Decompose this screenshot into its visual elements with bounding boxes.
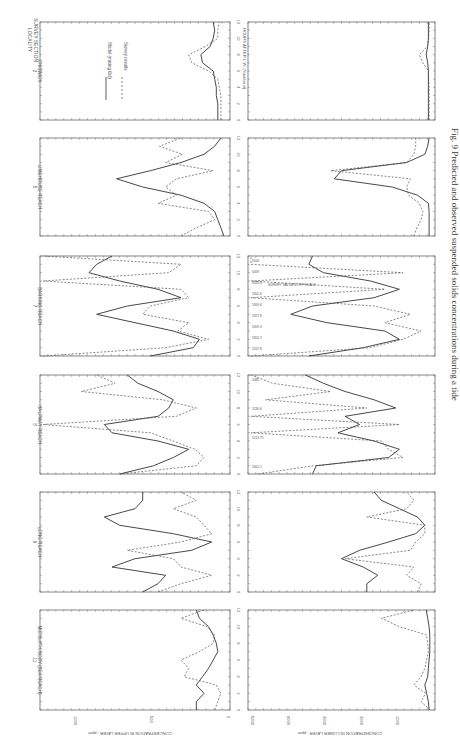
- figure-caption: Fig. 9 Predicted and observed suspended …: [450, 128, 460, 401]
- lower-tick-label: 3000: [322, 716, 327, 726]
- lower-layer-plot-frame: [248, 138, 435, 236]
- time-tick-label: 10: [236, 624, 241, 629]
- time-tick-label: 4: [236, 322, 241, 325]
- off-scale-annotation: 5309.6: [252, 303, 262, 307]
- time-tick-label: 6: [236, 659, 241, 662]
- upper-layer-plot-frame: [40, 375, 230, 474]
- legend-model-label: Model (mixing tbd): [107, 42, 112, 80]
- time-tick-label: 6: [236, 305, 241, 308]
- time-tick-label: 4: [236, 558, 241, 561]
- time-tick-label: 8: [236, 288, 241, 291]
- lower-layer-plot-frame: [248, 22, 435, 120]
- time-tick-label: 12: [236, 373, 241, 378]
- lower-layer-plot-frame: [248, 492, 435, 592]
- time-tick-label: 12: [236, 490, 241, 495]
- survey-line: [43, 375, 204, 474]
- model-line: [104, 375, 188, 474]
- model-line: [334, 138, 429, 236]
- survey-line: [381, 610, 430, 710]
- survey-line: [345, 492, 425, 592]
- panel-chiswick: 2CHISWICK024681012: [32, 20, 435, 122]
- model-line: [201, 22, 218, 120]
- time-tick-label: 0: [236, 473, 241, 476]
- lower-axis-label: CONCENTRATION IN LOWER LAYER : ppm: [297, 731, 382, 736]
- time-tick-label: 12: [236, 20, 241, 25]
- panel-limehouse-reach: 5LIMEHOUSE REACH024681012: [32, 136, 435, 238]
- off-scale-annotation: 5301.2: [252, 465, 262, 469]
- upper-layer-plot-frame: [40, 138, 230, 236]
- time-tick-label: 2: [236, 574, 241, 577]
- survey-line: [331, 138, 423, 236]
- upper-layer-plot-frame: [40, 492, 230, 592]
- off-scale-annotation: 5485: [252, 378, 259, 382]
- time-tick-label: 0: [236, 119, 241, 122]
- upper-layer-plot-frame: [40, 22, 230, 120]
- time-tick-label: 10: [236, 152, 241, 157]
- time-tick-label: 12: [236, 608, 241, 613]
- section-title: 8: [32, 423, 37, 426]
- panel-halfway-reach: 8HALFWAY REACH02468101254855230.65213.75…: [32, 373, 435, 476]
- time-tick-label: 6: [236, 541, 241, 544]
- off-scale-annotation: 5207.8: [252, 347, 262, 351]
- time-tick-label: 6: [236, 70, 241, 73]
- svg-text:LOCALITY: LOCALITY: [27, 28, 33, 53]
- survey-line: [251, 256, 421, 356]
- time-tick-label: 0: [236, 591, 241, 594]
- model-line: [104, 492, 211, 592]
- survey-line: [419, 22, 429, 120]
- time-tick-label: 10: [236, 389, 241, 394]
- section-title: 9: [32, 541, 37, 544]
- time-tick-label: 2: [236, 219, 241, 222]
- upper-axis-label: CONCENTRATION IN UPPER LAYER : ppm: [88, 731, 172, 736]
- panels-group: 2CHISWICK0246810125LIMEHOUSE REACH024681…: [32, 20, 435, 726]
- time-axis-label: HOURS AFTER L.W. (Southend): [242, 28, 247, 90]
- model-line: [342, 492, 425, 592]
- section-title: 5: [32, 186, 37, 189]
- figure-page: SURVEY SECTION LOCALITY 2CHISWICK0246810…: [0, 0, 460, 744]
- time-tick-label: 12: [236, 254, 241, 259]
- time-tick-label: 8: [236, 524, 241, 527]
- time-tick-label: 2: [236, 456, 241, 459]
- lower-tick-label: 2000: [359, 716, 364, 726]
- survey-line: [181, 610, 221, 710]
- section-title: 2: [32, 70, 37, 73]
- time-tick-label: 2: [236, 338, 241, 341]
- time-tick-label: 4: [236, 86, 241, 89]
- time-tick-label: 0: [236, 355, 241, 358]
- model-line: [426, 22, 428, 120]
- time-tick-label: 6: [236, 423, 241, 426]
- off-scale-annotation: 5230.6: [252, 407, 262, 411]
- time-tick-label: 10: [236, 506, 241, 511]
- time-tick-label: 6: [236, 186, 241, 189]
- model-line: [291, 256, 400, 356]
- time-tick-label: 12: [236, 136, 241, 141]
- section-title: 11: [32, 658, 37, 663]
- model-line: [425, 610, 430, 710]
- model-line: [89, 256, 199, 356]
- lower-tick-label: 5000: [250, 716, 255, 726]
- time-tick-label: 8: [236, 54, 241, 57]
- upper-layer-plot-frame: [40, 610, 230, 710]
- survey-line: [127, 492, 211, 592]
- time-tick-label: 2: [236, 692, 241, 695]
- time-tick-label: 10: [236, 36, 241, 41]
- time-tick-label: 10: [236, 270, 241, 275]
- locality-title: CHISWICK: [37, 60, 42, 84]
- lower-layer-plot-frame: [248, 256, 435, 356]
- time-tick-label: 2: [236, 103, 241, 106]
- panel-long-reach: 9LONG REACH024681012: [32, 490, 435, 594]
- lower-tick-label: 4000: [286, 716, 291, 726]
- off-scale-note: SURVEY VALUES OFF SCALE: [268, 283, 316, 287]
- model-line: [117, 138, 224, 236]
- time-tick-label: 4: [236, 440, 241, 443]
- panel-barking-reach: 7BARKING REACH024681012550650595326.4530…: [32, 254, 435, 358]
- survey-line: [189, 22, 221, 120]
- upper-tick-label: 500: [149, 716, 154, 723]
- lower-layer-plot-frame: [248, 610, 435, 710]
- model-line: [305, 375, 399, 474]
- time-tick-label: 0: [236, 235, 241, 238]
- section-title: 7: [32, 305, 37, 308]
- survey-line: [251, 375, 403, 474]
- upper-tick-label: 1000: [73, 716, 78, 726]
- time-tick-label: 4: [236, 676, 241, 679]
